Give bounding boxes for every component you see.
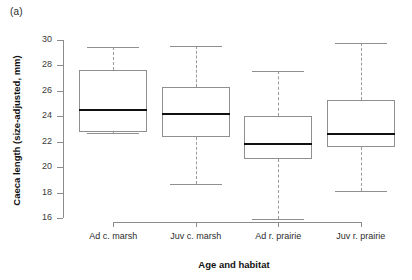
whisker-upper bbox=[196, 46, 197, 87]
plot-area: 1618202224262830Ad c. marshJuv c. marshA… bbox=[0, 0, 412, 280]
whisker-upper bbox=[113, 47, 114, 70]
whisker-cap-lower bbox=[87, 133, 139, 134]
y-tick-label: 26 bbox=[30, 86, 52, 95]
y-tick-label: 24 bbox=[30, 111, 52, 120]
y-tick-label: 30 bbox=[30, 35, 52, 44]
y-tick-label-wrap: 30 bbox=[30, 35, 52, 44]
whisker-cap-upper bbox=[252, 71, 304, 72]
x-tick-mark bbox=[196, 222, 197, 227]
median-line bbox=[244, 143, 312, 145]
y-tick-label-wrap: 18 bbox=[30, 188, 52, 197]
y-tick-label-wrap: 26 bbox=[30, 86, 52, 95]
whisker-upper bbox=[361, 43, 362, 100]
whisker-cap-upper bbox=[170, 46, 222, 47]
whisker-upper bbox=[278, 71, 279, 117]
x-tick-label: Juv c. marsh bbox=[155, 231, 238, 241]
box bbox=[244, 116, 312, 159]
whisker-cap-lower bbox=[335, 191, 387, 192]
y-tick-label: 22 bbox=[30, 137, 52, 146]
x-tick-label: Ad r. prairie bbox=[237, 231, 320, 241]
y-tick-label: 18 bbox=[30, 188, 52, 197]
box bbox=[327, 100, 395, 148]
whisker-cap-upper bbox=[335, 43, 387, 44]
y-axis-line bbox=[63, 40, 64, 218]
x-tick-label: Ad c. marsh bbox=[72, 231, 155, 241]
y-tick-mark bbox=[57, 65, 63, 66]
whisker-lower bbox=[278, 159, 279, 219]
y-tick-label-wrap: 24 bbox=[30, 111, 52, 120]
box bbox=[162, 87, 230, 137]
median-line bbox=[162, 113, 230, 115]
whisker-lower bbox=[361, 147, 362, 191]
y-tick-label: 16 bbox=[30, 213, 52, 222]
y-tick-mark bbox=[57, 91, 63, 92]
whisker-lower bbox=[196, 137, 197, 184]
x-tick-label: Juv r. prairie bbox=[320, 231, 403, 241]
y-tick-mark bbox=[57, 167, 63, 168]
y-tick-mark bbox=[57, 218, 63, 219]
x-tick-mark bbox=[278, 222, 279, 227]
y-tick-label-wrap: 20 bbox=[30, 162, 52, 171]
median-line bbox=[327, 133, 395, 135]
y-tick-label: 28 bbox=[30, 60, 52, 69]
median-line bbox=[79, 109, 147, 111]
y-tick-label-wrap: 22 bbox=[30, 137, 52, 146]
y-tick-mark bbox=[57, 142, 63, 143]
x-axis-line bbox=[113, 222, 361, 223]
y-tick-mark bbox=[57, 193, 63, 194]
y-tick-label-wrap: 16 bbox=[30, 213, 52, 222]
y-tick-mark bbox=[57, 40, 63, 41]
whisker-cap-upper bbox=[87, 47, 139, 48]
whisker-cap-lower bbox=[252, 219, 304, 220]
box bbox=[79, 70, 147, 132]
boxplot-figure: (a) Caeca length (size-adjusted, mm) Age… bbox=[0, 0, 412, 280]
y-tick-label-wrap: 28 bbox=[30, 60, 52, 69]
y-tick-mark bbox=[57, 116, 63, 117]
whisker-cap-lower bbox=[170, 184, 222, 185]
x-tick-mark bbox=[113, 222, 114, 227]
x-tick-mark bbox=[361, 222, 362, 227]
y-tick-label: 20 bbox=[30, 162, 52, 171]
